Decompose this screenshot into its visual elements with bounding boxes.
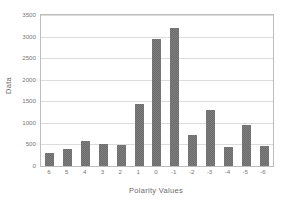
y-axis-tick: 2000 [22,75,36,82]
bar-slot [41,15,59,166]
bar-slot [95,15,113,166]
bar-series [41,15,273,166]
bar [152,39,161,166]
bar-slot [184,15,202,166]
bar [206,110,215,166]
x-axis-tick: 0 [147,168,165,180]
x-axis-tick: 6 [40,168,58,180]
y-axis-tick: 0 [33,162,36,169]
x-axis-tick: 1 [129,168,147,180]
y-axis-tick: 1500 [22,97,36,104]
bar [63,149,72,166]
bar-slot [202,15,220,166]
plot-area [40,14,274,167]
x-axis-tick: 3 [94,168,112,180]
bar-slot [166,15,184,166]
x-axis-tick-labels: 6543210-1-2-3-4-5-6 [40,168,272,180]
x-axis-tick: -3 [201,168,219,180]
bar [99,144,108,166]
x-axis-title-label: Polarity Values [129,186,183,195]
x-axis-tick: 4 [76,168,94,180]
x-axis-tick: -4 [218,168,236,180]
bar-slot [77,15,95,166]
y-axis-tick-labels: 3500300025002000150010005000 [16,14,38,165]
bar-slot [237,15,255,166]
bar [135,104,144,166]
bar-slot [219,15,237,166]
bar [188,135,197,166]
bar-slot [112,15,130,166]
bar [117,145,126,166]
y-axis-tick: 3000 [22,32,36,39]
bar [242,125,251,166]
y-axis-tick: 3500 [22,11,36,18]
bar-slot [148,15,166,166]
y-axis-tick: 500 [26,140,36,147]
y-axis-title-label: Data [4,76,13,93]
x-axis-tick: -5 [236,168,254,180]
y-axis-tick: 2500 [22,54,36,61]
x-axis-tick: -1 [165,168,183,180]
bar-slot [130,15,148,166]
bar [170,28,179,166]
bar-chart-figure: Data 3500300025002000150010005000 654321… [0,0,294,208]
bar [260,146,269,166]
bar-slot [255,15,273,166]
x-axis-tick: 5 [58,168,76,180]
x-axis-tick: 2 [111,168,129,180]
bar [224,147,233,166]
x-axis-tick: -2 [183,168,201,180]
bar [45,153,54,166]
x-axis-tick: -6 [254,168,272,180]
bar [81,141,90,166]
y-axis-tick: 1000 [22,118,36,125]
bar-slot [59,15,77,166]
x-axis-title: Polarity Values [40,186,272,195]
